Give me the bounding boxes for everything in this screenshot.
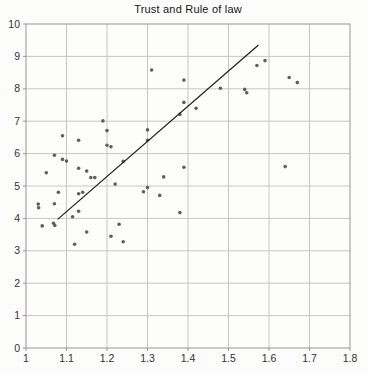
data-point <box>182 78 186 82</box>
data-point <box>77 192 81 196</box>
y-tick-label: 0 <box>14 342 20 354</box>
data-point <box>57 190 61 194</box>
data-point <box>105 129 109 133</box>
data-point <box>77 139 81 143</box>
y-tick-label: 9 <box>14 50 20 62</box>
y-tick-label: 5 <box>14 180 20 192</box>
data-point <box>73 243 77 247</box>
data-point <box>105 143 109 147</box>
x-tick-label: 1.7 <box>302 352 317 364</box>
y-tick-label: 3 <box>14 244 20 256</box>
x-tick-label: 1.4 <box>181 352 196 364</box>
data-point <box>178 211 182 215</box>
data-point <box>146 186 150 190</box>
data-point <box>93 176 97 180</box>
data-point <box>53 153 57 157</box>
data-point <box>296 81 300 85</box>
y-tick-label: 2 <box>14 277 20 289</box>
y-tick-label: 4 <box>14 212 20 224</box>
data-point <box>36 202 40 206</box>
data-point <box>219 86 223 90</box>
data-point <box>65 159 69 163</box>
x-tick-label: 1.5 <box>221 352 236 364</box>
data-point <box>283 165 287 169</box>
y-tick-label: 7 <box>14 115 20 127</box>
x-tick-label: 1.3 <box>140 352 155 364</box>
data-point <box>85 230 89 234</box>
y-tick-label: 1 <box>14 309 20 321</box>
x-tick-label: 1.1 <box>59 352 74 364</box>
data-point <box>53 202 57 206</box>
data-point <box>61 158 65 162</box>
y-tick-label: 8 <box>14 82 20 94</box>
data-point <box>142 190 146 194</box>
data-point <box>245 91 249 95</box>
x-tick-label: 1 <box>23 352 29 364</box>
data-point <box>109 234 113 238</box>
data-point <box>263 59 267 63</box>
data-point <box>146 128 150 132</box>
data-point <box>45 171 49 175</box>
data-point <box>53 224 57 228</box>
data-point <box>182 101 186 105</box>
scatter-chart-figure: Trust and Rule of law 11.11.21.31.41.51.… <box>0 0 368 373</box>
data-point <box>255 64 259 68</box>
data-point <box>158 194 162 198</box>
scatter-plot-svg: 11.11.21.31.41.51.61.71.8012345678910 <box>0 0 368 373</box>
data-point <box>40 224 44 228</box>
data-point <box>150 68 154 72</box>
data-point <box>182 165 186 169</box>
y-tick-label: 6 <box>14 147 20 159</box>
data-point <box>37 206 41 210</box>
data-point <box>243 88 247 92</box>
data-point <box>109 145 113 149</box>
data-point <box>101 119 105 123</box>
data-point <box>162 175 166 179</box>
data-point <box>89 176 93 180</box>
data-point <box>117 222 121 226</box>
data-point <box>61 134 65 138</box>
data-point <box>81 190 85 194</box>
data-point <box>287 76 291 80</box>
y-tick-label: 10 <box>8 18 20 30</box>
data-point <box>194 106 198 110</box>
data-point <box>77 210 81 214</box>
x-tick-label: 1.2 <box>100 352 115 364</box>
data-point <box>121 240 125 244</box>
data-point <box>71 215 75 219</box>
data-point <box>85 169 89 173</box>
data-point <box>113 182 117 186</box>
x-tick-label: 1.8 <box>343 352 358 364</box>
data-point <box>77 166 81 170</box>
x-tick-label: 1.6 <box>262 352 277 364</box>
